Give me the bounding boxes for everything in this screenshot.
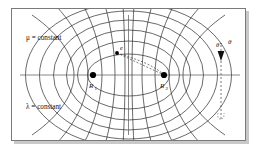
label-mu-constant: μ = constant — [26, 34, 61, 42]
figure-frame: μ = constant λ = constant e R 1 R 2 θ̂ θ — [11, 8, 246, 141]
label-nucleus-right: R 2 — [159, 82, 169, 91]
hyperbola-r1 — [132, 9, 134, 140]
nucleus-right-point — [161, 72, 167, 78]
label-nucleus-left-main: R — [88, 82, 94, 90]
electron-point — [115, 51, 119, 55]
label-nucleus-right-subscript: 2 — [166, 86, 169, 91]
hyperbola-r2 — [142, 9, 152, 140]
nucleus-left-point — [90, 72, 96, 78]
hyperbola-l4 — [57, 9, 88, 140]
hyperbola-l2 — [105, 9, 115, 140]
electron-to-foci-dashed — [117, 53, 164, 75]
label-theta: θ — [228, 38, 232, 46]
label-nucleus-left: R 1 — [88, 82, 98, 91]
hyperbola-l1 — [123, 9, 125, 140]
hyperbola-r4 — [169, 9, 200, 140]
dash-to-r2 — [117, 53, 164, 75]
label-electron: e — [120, 44, 123, 51]
label-nucleus-right-main: R — [159, 82, 165, 90]
theta-arrow-head — [218, 51, 225, 61]
figure-root: μ = constant λ = constant e R 1 R 2 θ̂ θ — [0, 0, 264, 157]
coordinate-diagram: μ = constant λ = constant e R 1 R 2 θ̂ θ — [12, 9, 245, 140]
label-lambda-constant: λ = constant — [26, 103, 61, 111]
